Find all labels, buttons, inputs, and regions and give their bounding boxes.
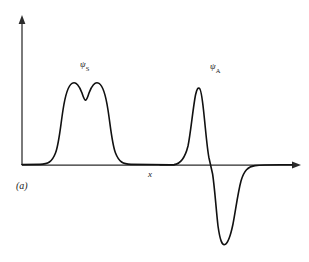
y-axis-arrowhead: [19, 15, 26, 24]
psi-antisymmetric-label: ψA: [210, 62, 220, 73]
psi-symmetric-curve: [22, 83, 174, 165]
x-axis-label: x: [148, 170, 152, 179]
psi-antisymmetric-symbol: ψ: [210, 61, 216, 71]
wavefunction-plot: [0, 0, 309, 262]
psi-antisymmetric-subscript: A: [216, 67, 221, 74]
psi-symmetric-subscript: S: [86, 65, 90, 72]
figure-panel-a: ψS ψA x (a): [0, 0, 309, 262]
psi-symmetric-symbol: ψ: [80, 59, 86, 69]
psi-symmetric-label: ψS: [80, 60, 89, 71]
x-axis-arrowhead: [292, 162, 301, 169]
psi-antisymmetric-curve: [160, 88, 292, 245]
axes-group: [19, 15, 301, 168]
panel-caption: (a): [16, 181, 28, 191]
